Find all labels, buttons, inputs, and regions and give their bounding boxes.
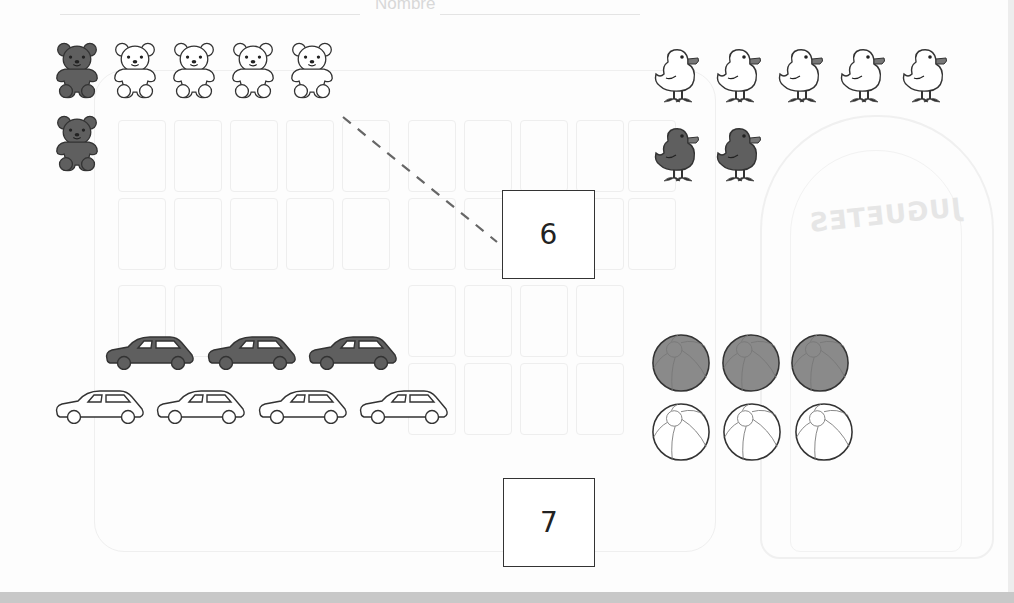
car-icon-filled <box>307 334 399 370</box>
ball-icon-outline <box>794 402 854 462</box>
bottom-bar <box>0 592 1014 603</box>
bear-icon-filled <box>54 113 100 173</box>
answer-box-7[interactable]: 7 <box>503 478 595 567</box>
chick-icon-outline <box>838 38 894 112</box>
car-icon-filled <box>206 334 298 370</box>
car-icon-outline <box>155 388 247 424</box>
bear-icon-outline <box>230 40 276 100</box>
ball-icon-filled <box>790 333 850 393</box>
car-icon-filled <box>104 334 196 370</box>
name-line <box>60 14 360 15</box>
answer-box-6[interactable]: 6 <box>502 190 595 279</box>
bear-icon-outline <box>112 40 158 100</box>
page-edge <box>1008 0 1014 592</box>
car-icon-outline <box>358 388 450 424</box>
background-frame <box>94 70 716 552</box>
bear-icon-filled <box>54 40 100 100</box>
ball-icon-outline <box>651 402 711 462</box>
chick-icon-outline <box>900 38 956 112</box>
chick-icon-filled <box>652 117 708 191</box>
chick-icon-filled <box>714 117 770 191</box>
ball-icon-filled <box>721 333 781 393</box>
name-line <box>440 14 640 15</box>
ball-icon-outline <box>722 402 782 462</box>
bear-icon-outline <box>289 40 335 100</box>
bear-icon-outline <box>171 40 217 100</box>
chick-icon-outline <box>714 38 770 112</box>
background-title: JUGUETES <box>807 192 963 238</box>
car-icon-outline <box>54 388 146 424</box>
car-icon-outline <box>257 388 349 424</box>
chick-icon-outline <box>776 38 832 112</box>
name-label: Nombre <box>375 0 435 14</box>
chick-icon-outline <box>652 38 708 112</box>
answer-box-value: 7 <box>540 506 558 539</box>
worksheet-page: Nombre <box>0 0 1014 603</box>
answer-box-value: 6 <box>540 218 558 251</box>
ball-icon-filled <box>651 333 711 393</box>
